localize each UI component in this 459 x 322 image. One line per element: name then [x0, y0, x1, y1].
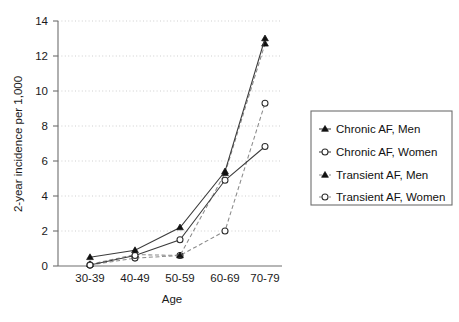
point-chronic-men-40-49: [132, 247, 139, 253]
chart-legend: Chronic AF, Men Chronic AF, Women Transi…: [311, 111, 452, 205]
point-chronic-women-50-59: [177, 237, 183, 243]
gridlines: [58, 21, 282, 231]
ytick-label-0: 0: [42, 260, 48, 272]
point-transient-women-70-79: [262, 100, 268, 106]
ytick-label-14: 14: [35, 15, 48, 27]
chart-figure: 14 12 10 8 6 4 2 0 30-39 40-49 50-59 60-…: [0, 0, 459, 322]
ytick-label-6: 6: [42, 155, 48, 167]
xtick-label-40-49: 40-49: [120, 272, 149, 284]
legend-item-chronic-af-women[interactable]: Chronic AF, Women: [319, 146, 437, 158]
point-chronic-women-40-49: [132, 253, 138, 259]
ytick-label-2: 2: [42, 225, 48, 237]
legend-marker-open-circle-chronic-women: [322, 149, 328, 155]
point-chronic-men-60-69: [222, 168, 229, 174]
ytick-label-8: 8: [42, 120, 48, 132]
xtick-label-30-39: 30-39: [75, 272, 104, 284]
series-transient-af-women: [87, 100, 268, 268]
ytick-label-10: 10: [35, 85, 48, 97]
legend-label-transient-af-men: Transient AF, Men: [336, 169, 428, 181]
xtick-label-50-59: 50-59: [165, 272, 194, 284]
axes: [53, 21, 282, 266]
x-axis-title: Age: [162, 293, 182, 305]
legend-label-chronic-af-men: Chronic AF, Men: [336, 123, 420, 135]
x-tick-labels: 30-39 40-49 50-59 60-69 70-79: [75, 272, 279, 284]
point-transient-women-60-69: [222, 228, 228, 234]
series-chronic-af-women: [87, 144, 268, 269]
point-chronic-men-70-79: [262, 35, 269, 41]
legend-item-transient-af-men[interactable]: Transient AF, Men: [319, 169, 428, 181]
series-chronic-af-men: [87, 35, 269, 260]
legend-marker-open-circle-transient-women: [322, 194, 328, 200]
y-tick-labels: 14 12 10 8 6 4 2 0: [35, 15, 48, 272]
legend-label-transient-af-women: Transient AF, Women: [336, 191, 445, 203]
legend-label-chronic-af-women: Chronic AF, Women: [336, 146, 437, 158]
legend-item-transient-af-women[interactable]: Transient AF, Women: [319, 191, 445, 203]
series-line-chronic-af-men: [90, 39, 265, 258]
point-chronic-women-60-69: [222, 177, 228, 183]
xtick-label-70-79: 70-79: [250, 272, 279, 284]
series-transient-af-men: [87, 40, 269, 266]
ytick-label-4: 4: [42, 190, 49, 202]
series-line-chronic-af-women: [90, 147, 265, 266]
incidence-line-chart: 14 12 10 8 6 4 2 0 30-39 40-49 50-59 60-…: [0, 0, 459, 322]
xtick-label-60-69: 60-69: [210, 272, 239, 284]
ytick-label-12: 12: [35, 50, 48, 62]
point-chronic-women-70-79: [262, 144, 268, 150]
point-chronic-women-30-39: [87, 262, 93, 268]
y-axis-title: 2-year incidence per 1,000: [12, 76, 24, 212]
